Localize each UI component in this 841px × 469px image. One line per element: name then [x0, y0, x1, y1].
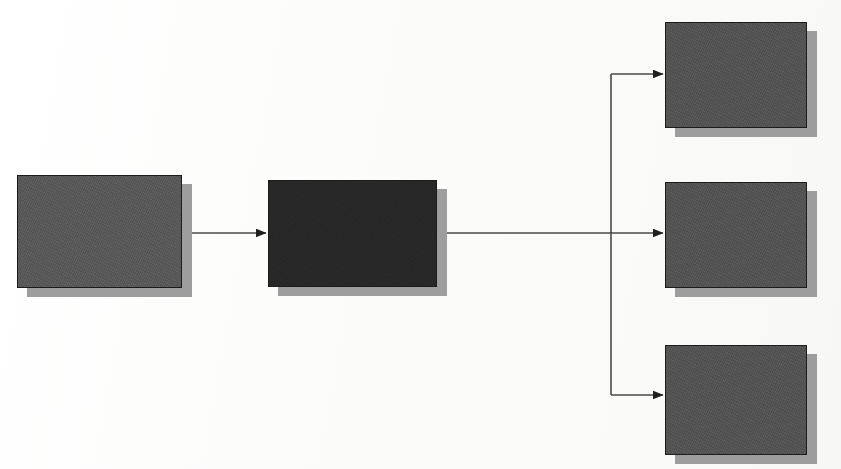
node-body: [17, 175, 182, 288]
node-body: [665, 182, 807, 288]
node-groupware-systems[interactable]: Groupware Systems: [665, 345, 807, 455]
node-executive-information-systems[interactable]: Executive Information Systems: [665, 182, 807, 288]
node-management-information-systems[interactable]: Management Information Systems: [268, 180, 437, 287]
diagram-canvas: Knowledge Management Management Informat…: [0, 0, 841, 469]
node-body: [665, 22, 807, 128]
node-decision-support-systems[interactable]: Decision Support Systems: [665, 22, 807, 128]
node-body: [665, 345, 807, 455]
node-knowledge-management[interactable]: Knowledge Management: [17, 175, 182, 288]
node-body: [268, 180, 437, 287]
